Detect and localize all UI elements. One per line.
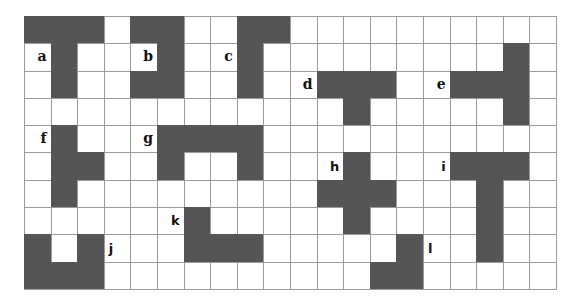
shape-h-cell	[370, 180, 397, 207]
grid-cell	[184, 180, 211, 207]
shape-b-cell	[130, 16, 157, 43]
grid-cell	[210, 180, 237, 207]
shape-label-l: l	[428, 241, 432, 254]
grid-cell	[370, 125, 397, 152]
grid-cell	[343, 43, 370, 70]
grid-cell	[423, 43, 450, 70]
shape-i-cell	[476, 234, 503, 261]
grid-cell: h	[317, 152, 344, 179]
shape-label-e: e	[437, 77, 446, 91]
grid-cell	[290, 152, 317, 179]
grid-cell	[317, 125, 344, 152]
grid-cell	[24, 152, 51, 179]
grid-cell	[210, 16, 237, 43]
shape-j-cell	[24, 262, 51, 289]
grid-cell: c	[210, 43, 237, 70]
shape-l-cell	[396, 234, 423, 261]
grid-cell	[423, 180, 450, 207]
shape-e-cell	[503, 71, 530, 98]
shape-l-cell	[396, 262, 423, 289]
shape-k-cell	[237, 234, 264, 261]
shape-c-cell	[263, 16, 290, 43]
grid-cell	[263, 180, 290, 207]
grid-cell	[396, 16, 423, 43]
grid-cell: k	[157, 207, 184, 234]
grid-cell	[130, 207, 157, 234]
grid-cell	[104, 43, 131, 70]
grid-cell	[396, 207, 423, 234]
grid-cell	[529, 43, 556, 70]
grid-cell	[343, 234, 370, 261]
shape-label-f: f	[41, 132, 47, 146]
grid-cell	[529, 180, 556, 207]
grid-cell	[529, 125, 556, 152]
shape-g-cell	[157, 125, 184, 152]
grid-cell	[317, 234, 344, 261]
shape-f-cell	[51, 180, 78, 207]
grid-cell	[476, 98, 503, 125]
grid-cell	[263, 125, 290, 152]
grid-cell	[290, 16, 317, 43]
grid-cell	[263, 43, 290, 70]
grid-cell	[450, 180, 477, 207]
shape-g-cell	[184, 125, 211, 152]
grid-cell	[450, 98, 477, 125]
grid-cell	[423, 207, 450, 234]
grid-cell	[24, 71, 51, 98]
grid-cell	[370, 16, 397, 43]
shape-j-cell	[24, 234, 51, 261]
grid-cell	[237, 180, 264, 207]
shape-label-a: a	[38, 50, 47, 64]
shape-l-cell	[370, 262, 397, 289]
grid-cell	[450, 16, 477, 43]
grid-cell	[476, 43, 503, 70]
grid-cell	[396, 125, 423, 152]
grid-cell	[210, 152, 237, 179]
grid-cell	[290, 234, 317, 261]
grid-cell	[130, 98, 157, 125]
shape-a-cell	[77, 16, 104, 43]
grid-cell: i	[423, 152, 450, 179]
shape-i-cell	[476, 180, 503, 207]
grid-cell	[396, 180, 423, 207]
shape-f-cell	[51, 152, 78, 179]
grid-cell: d	[290, 71, 317, 98]
grid-cell: a	[24, 43, 51, 70]
shape-label-g: g	[143, 132, 153, 146]
grid-cell	[503, 16, 530, 43]
grid-cell: e	[423, 71, 450, 98]
grid-cell	[529, 234, 556, 261]
shape-c-cell	[237, 16, 264, 43]
grid-cell	[503, 180, 530, 207]
shape-label-k: k	[171, 214, 180, 227]
grid-cell	[317, 262, 344, 289]
grid-cell	[503, 207, 530, 234]
grid-cell	[529, 262, 556, 289]
shape-h-cell	[317, 180, 344, 207]
grid-cell	[263, 71, 290, 98]
shape-c-cell	[237, 43, 264, 70]
shape-k-cell	[184, 207, 211, 234]
grid-cell	[290, 262, 317, 289]
shape-g-cell	[237, 125, 264, 152]
grid-cell	[370, 152, 397, 179]
grid-cell	[237, 98, 264, 125]
shape-label-h: h	[330, 159, 339, 172]
grid-cell: g	[130, 125, 157, 152]
grid-cell	[317, 207, 344, 234]
shape-d-cell	[370, 71, 397, 98]
shape-b-cell	[157, 16, 184, 43]
shape-a-cell	[51, 71, 78, 98]
grid-cell	[343, 16, 370, 43]
grid-cell	[396, 43, 423, 70]
shape-k-cell	[184, 234, 211, 261]
grid-cell	[51, 234, 78, 261]
grid-cell	[529, 98, 556, 125]
grid-cell	[396, 152, 423, 179]
grid-cell	[104, 180, 131, 207]
grid-cell	[104, 125, 131, 152]
grid-cell	[450, 234, 477, 261]
grid-cell	[396, 71, 423, 98]
grid-cell	[77, 125, 104, 152]
grid-cell	[77, 207, 104, 234]
